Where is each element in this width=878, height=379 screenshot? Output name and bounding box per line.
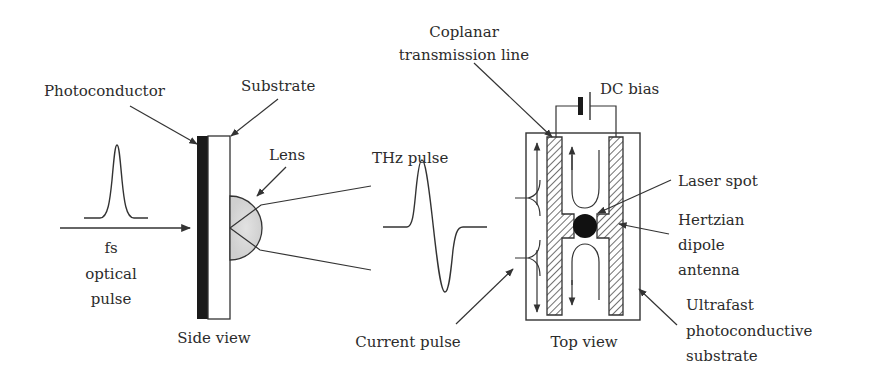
optical-label: optical — [85, 265, 137, 283]
ultrafast-label-line3: substrate — [686, 347, 758, 365]
laser-spot — [573, 214, 597, 238]
fs-label: fs — [104, 239, 117, 257]
substrate-label: Substrate — [241, 77, 315, 95]
top-view-caption: Top view — [550, 333, 617, 351]
current-pulse-leader-arrow — [456, 269, 513, 324]
photoconductor-layer — [197, 136, 208, 319]
coplanar-label-line2: transmission line — [399, 46, 529, 64]
current-pulse-label: Current pulse — [355, 333, 461, 351]
optical-pulse-waveform — [84, 145, 148, 218]
ultrafast-label-line2: photoconductive — [686, 322, 812, 340]
side-view: Photoconductor Substrate Lens fs optical… — [44, 77, 371, 347]
lens — [230, 196, 262, 260]
photoconductor-label: Photoconductor — [44, 82, 166, 100]
laser-spot-label: Laser spot — [678, 172, 758, 190]
top-view: Coplanar transmission line DC bias Laser… — [355, 23, 812, 365]
thz-pulse-group: THz pulse — [372, 149, 487, 292]
hertzian-label-line1: Hertzian — [678, 211, 745, 229]
coplanar-label-line1: Coplanar — [429, 23, 499, 41]
ultrafast-label-line1: Ultrafast — [686, 296, 754, 314]
battery-negative-plate — [578, 97, 583, 115]
substrate-top-leader-arrow — [639, 289, 677, 325]
thz-emitter-diagram: Photoconductor Substrate Lens fs optical… — [0, 0, 878, 379]
lens-leader-arrow — [257, 167, 286, 196]
substrate-layer — [208, 136, 230, 319]
thz-pulse-waveform — [383, 160, 487, 292]
pulse-label: pulse — [91, 290, 132, 308]
hertzian-label-line2: dipole — [678, 236, 725, 254]
photoconductor-leader-arrow — [130, 106, 197, 144]
dc-bias-label: DC bias — [600, 80, 659, 98]
coplanar-leader-arrow — [474, 63, 552, 137]
substrate-leader-arrow — [231, 99, 278, 136]
lens-label: Lens — [269, 146, 305, 164]
hertzian-label-line3: antenna — [678, 261, 740, 279]
thz-pulse-label: THz pulse — [372, 149, 449, 167]
side-view-caption: Side view — [177, 329, 250, 347]
